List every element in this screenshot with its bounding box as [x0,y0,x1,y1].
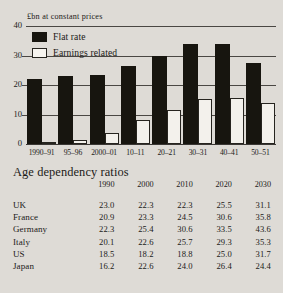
age-dependency-ratios-table: 19902000201020202030 UK23.022.322.325.53… [13,180,271,272]
chart-bar-earnings-related [167,110,181,145]
legend-item-flat-rate: Flat rate [32,30,117,44]
chart-bar-group [121,26,150,144]
table-row: Italy20.122.625.729.335.3 [13,236,271,248]
chart-x-axis-tick-label: 50–51 [240,148,280,157]
chart-bar-group [152,26,181,144]
chart-bar-earnings-related [105,133,119,144]
legend-swatch-flat-rate [32,32,47,42]
chart-y-axis-tick-mark [22,85,26,86]
chart-bar-flat-rate [152,56,167,145]
table-cell: 25.5 [193,199,232,211]
table-cell: 33.5 [193,223,232,235]
chart-bar-earnings-related [261,103,275,144]
chart-bar-flat-rate [215,44,230,144]
chart-bar-flat-rate [183,44,198,144]
chart-bar-earnings-related [42,142,56,144]
table-cell: 30.6 [154,223,193,235]
legend-label-earnings-related: Earnings related [53,48,117,58]
table-cell: 30.6 [193,211,232,223]
table-row: UK23.022.322.325.531.1 [13,199,271,211]
table-cell: 31.1 [232,199,271,211]
table-row: France20.923.324.530.635.8 [13,211,271,223]
table-cell: 16.2 [75,260,114,272]
table-column-header: 2000 [115,180,154,199]
chart-bar-flat-rate [27,79,42,144]
table-column-header: 2010 [154,180,193,199]
table-row-label: Japan [13,260,75,272]
table-cell: 25.0 [193,248,232,260]
table-column-header: 2020 [193,180,232,199]
table-row-label: US [13,248,75,260]
table-header: 19902000201020202030 [13,180,271,199]
table-cell: 22.6 [115,236,154,248]
chart-y-axis-tick-label: 30 [0,51,22,60]
table-column-header: 1990 [75,180,114,199]
table-cell: 29.3 [193,236,232,248]
bar-chart-figure: £bn at constant prices 010203040 Flat ra… [0,0,283,160]
table-cell: 23.3 [115,211,154,223]
table-row-label: France [13,211,75,223]
chart-bar-flat-rate [246,63,261,144]
chart-y-axis-tick-mark [22,56,26,57]
chart-bar-flat-rate [121,66,136,144]
table-cell: 35.8 [232,211,271,223]
chart-y-axis-tick-mark [22,115,26,116]
legend-swatch-earnings-related [32,48,47,58]
table-cell: 24.4 [232,260,271,272]
table-cell: 25.7 [154,236,193,248]
table-cell: 18.8 [154,248,193,260]
table-cell: 22.3 [115,199,154,211]
chart-bar-earnings-related [73,140,87,144]
legend-label-flat-rate: Flat rate [53,32,86,42]
table-cell: 18.2 [115,248,154,260]
chart-bar-earnings-related [136,120,150,144]
chart-gridline [26,144,276,145]
chart-bar-earnings-related [230,98,244,144]
table-cell: 23.0 [75,199,114,211]
table-cell: 18.5 [75,248,114,260]
table-cell: 25.4 [115,223,154,235]
table-cell: 20.1 [75,236,114,248]
chart-y-axis-tick-label: 20 [0,80,22,89]
table-header-row: 19902000201020202030 [13,180,271,199]
table-row-label: UK [13,199,75,211]
chart-y-axis-tick-label: 0 [0,139,22,148]
chart-axis-title: £bn at constant prices [27,12,103,21]
table-cell: 24.0 [154,260,193,272]
table-cell: 43.6 [232,223,271,235]
chart-bar-flat-rate [90,75,105,144]
chart-bar-group [183,26,212,144]
chart-legend: Flat rate Earnings related [32,30,117,62]
table-corner-header [13,180,75,199]
table-column-header: 2030 [232,180,271,199]
table-cell: 22.3 [154,199,193,211]
table-row: Germany22.325.430.633.543.6 [13,223,271,235]
table-cell: 20.9 [75,211,114,223]
table-title: Age dependency ratios [13,165,129,180]
table-cell: 35.3 [232,236,271,248]
table-row: US18.518.218.825.031.7 [13,248,271,260]
chart-y-axis-tick-label: 10 [0,110,22,119]
chart-y-axis-tick-label: 40 [0,21,22,30]
table-cell: 22.6 [115,260,154,272]
table-body: UK23.022.322.325.531.1France20.923.324.5… [13,199,271,272]
table-cell: 31.7 [232,248,271,260]
table-cell: 22.3 [75,223,114,235]
chart-bar-group [215,26,244,144]
table-row: Japan16.222.624.026.424.4 [13,260,271,272]
table-row-label: Italy [13,236,75,248]
legend-item-earnings-related: Earnings related [32,46,117,60]
chart-bar-group [246,26,275,144]
table-cell: 26.4 [193,260,232,272]
table-cell: 24.5 [154,211,193,223]
table-row-label: Germany [13,223,75,235]
chart-bar-flat-rate [58,76,73,144]
chart-bar-earnings-related [198,99,212,144]
data-table-figure: Age dependency ratios 199020002010202020… [0,163,283,293]
